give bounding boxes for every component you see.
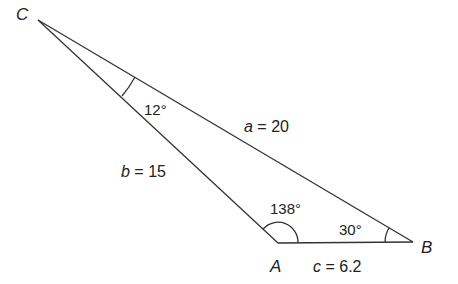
angle-arc-c bbox=[122, 77, 135, 96]
side-b bbox=[38, 20, 278, 243]
side-label-c: c = 6.2 bbox=[313, 258, 362, 275]
side-label-b: b = 15 bbox=[121, 163, 166, 180]
side-var-b: b bbox=[121, 163, 130, 180]
vertex-label-a: A bbox=[269, 257, 281, 276]
angle-arc-b bbox=[385, 228, 389, 242]
angle-label-b: 30° bbox=[339, 221, 362, 238]
angle-label-c: 12° bbox=[144, 101, 167, 118]
angle-label-a: 138° bbox=[270, 200, 301, 217]
side-eq-b: = 15 bbox=[130, 163, 166, 180]
side-label-a: a = 20 bbox=[244, 118, 289, 135]
vertex-label-b: B bbox=[421, 238, 432, 257]
side-var-a: a bbox=[244, 118, 253, 135]
side-var-c: c bbox=[313, 258, 321, 275]
side-eq-a: = 20 bbox=[253, 118, 289, 135]
triangle-sides bbox=[38, 20, 413, 243]
side-a bbox=[38, 20, 413, 242]
side-eq-c: = 6.2 bbox=[321, 258, 362, 275]
triangle-diagram: C A B 12° 138° 30° a = 20 b = 15 c = 6.2 bbox=[0, 0, 458, 284]
angle-arc-a bbox=[263, 222, 298, 243]
vertex-label-c: C bbox=[16, 5, 29, 24]
